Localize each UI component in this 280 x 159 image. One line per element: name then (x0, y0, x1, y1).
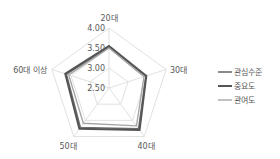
category-label-60s-plus: 60대 이상 (13, 65, 48, 75)
legend-label: 관심수준 (234, 67, 262, 77)
legend-item-interest: 관심수준 (218, 67, 262, 77)
legend-label: 관여도 (234, 95, 255, 105)
radar-series (65, 46, 146, 130)
category-label-30s: 30대 (170, 66, 187, 75)
legend-item-involvement: 관여도 (218, 95, 255, 105)
tick-label: 4.00 (87, 24, 105, 33)
tick-label: 3.00 (87, 64, 105, 73)
legend-item-importance: 중요도 (218, 82, 255, 91)
radar-chart: 2.503.003.504.00 20대 30대 40대 50대 60대 이상 … (0, 0, 280, 159)
legend: 관심수준 중요도 관여도 (218, 67, 262, 105)
category-label-20s: 20대 (100, 14, 117, 23)
tick-label: 3.50 (87, 44, 105, 53)
legend-label: 중요도 (234, 82, 255, 91)
series-line (65, 46, 146, 130)
tick-label: 2.50 (87, 84, 105, 93)
category-label-40s: 40대 (137, 142, 154, 151)
category-label-50s: 50대 (59, 142, 76, 151)
